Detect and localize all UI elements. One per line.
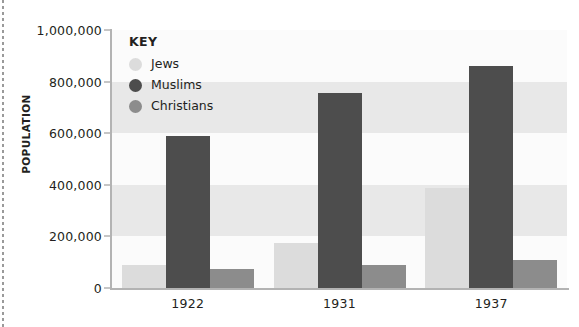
legend-entry-jews: Jews	[129, 54, 213, 75]
legend-title: KEY	[129, 34, 213, 49]
bar-christians-1922	[210, 269, 254, 288]
legend-entry-muslims: Muslims	[129, 75, 213, 96]
bar-group-1937	[425, 30, 557, 288]
population-bar-chart: POPULATION 0200,000400,000600,000800,000…	[0, 0, 579, 327]
x-tick-label-1922: 1922	[171, 296, 204, 311]
y-tick-label: 400,000	[49, 177, 102, 192]
legend-swatch-muslims-icon	[129, 79, 142, 92]
legend-swatch-christians-icon	[129, 100, 142, 113]
legend-entry-christians: Christians	[129, 96, 213, 117]
legend-entries: JewsMuslimsChristians	[129, 54, 213, 117]
bar-christians-1931	[362, 265, 406, 288]
x-axis-line	[110, 288, 569, 290]
bar-jews-1937	[425, 188, 469, 288]
x-tick-label-1937: 1937	[475, 296, 508, 311]
y-tick-label: 800,000	[49, 74, 102, 89]
legend-label: Muslims	[151, 79, 202, 92]
y-tick-label: 200,000	[49, 229, 102, 244]
bar-group-1931	[274, 30, 406, 288]
legend-label: Jews	[151, 58, 179, 71]
bar-christians-1937	[513, 260, 557, 288]
y-axis-ticks: 0200,000400,000600,000800,0001,000,000	[0, 0, 110, 327]
legend-label: Christians	[151, 100, 213, 113]
y-tick-label: 0	[94, 281, 102, 296]
bar-muslims-1937	[469, 66, 513, 288]
legend-swatch-jews-icon	[129, 58, 142, 71]
y-tick-label: 1,000,000	[37, 23, 102, 38]
bar-muslims-1922	[166, 136, 210, 288]
bar-muslims-1931	[318, 93, 362, 288]
bar-jews-1922	[122, 265, 166, 288]
y-tick-label: 600,000	[49, 126, 102, 141]
x-tick-label-1931: 1931	[323, 296, 356, 311]
bar-jews-1931	[274, 243, 318, 288]
chart-legend: KEY JewsMuslimsChristians	[129, 34, 213, 117]
